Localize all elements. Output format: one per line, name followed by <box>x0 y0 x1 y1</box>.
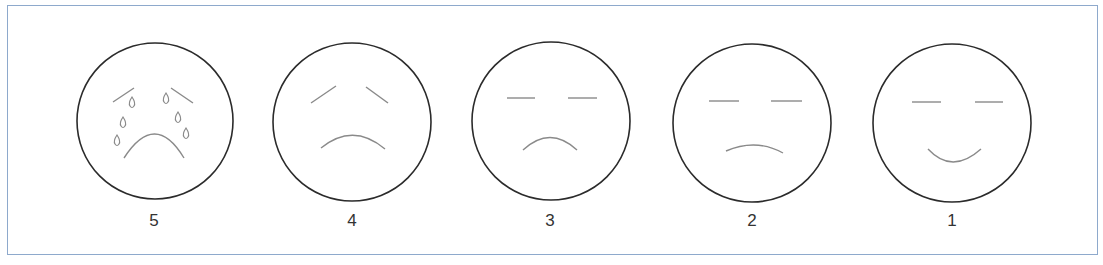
face-4-label: 4 <box>332 211 372 231</box>
face-2-mouth <box>726 145 783 153</box>
face-3-sad <box>472 42 630 200</box>
face-3-mouth <box>523 138 577 151</box>
face-2-outline <box>673 44 831 202</box>
face-1-happy <box>873 44 1031 202</box>
face-2-slightly-sad <box>673 44 831 202</box>
face-5-label: 5 <box>134 211 174 231</box>
face-3-label: 3 <box>530 211 570 231</box>
face-2-label: 2 <box>732 211 772 231</box>
face-5-mouth <box>124 134 184 158</box>
face-5-right-brow <box>171 88 193 103</box>
face-1-label: 1 <box>932 211 972 231</box>
face-4-very-sad <box>273 43 431 201</box>
face-5-crying <box>77 43 233 199</box>
face-4-right-brow <box>366 87 388 103</box>
face-1-mouth <box>928 149 981 162</box>
face-4-mouth <box>321 135 385 149</box>
face-4-left-brow <box>311 86 336 103</box>
face-3-outline <box>472 42 630 200</box>
face-5-outline <box>77 43 233 199</box>
tear-drops-icon <box>114 93 188 146</box>
face-4-outline <box>273 43 431 201</box>
face-1-outline <box>873 44 1031 202</box>
